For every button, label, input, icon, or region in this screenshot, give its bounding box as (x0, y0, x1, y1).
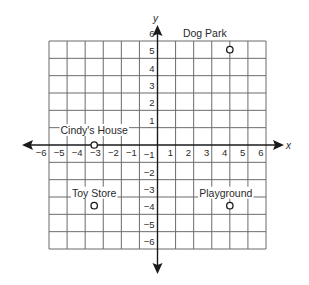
y-tick-label: −3 (144, 184, 155, 195)
x-tick-label: 4 (222, 147, 227, 158)
point-marker-icon (227, 202, 233, 208)
x-tick-label: 6 (258, 147, 263, 158)
x-tick-label: 1 (168, 147, 173, 158)
y-tick-label: 1 (149, 115, 154, 126)
point-label: Playground (199, 187, 252, 199)
x-tick-label: −5 (54, 147, 65, 158)
point-playground: Playground (198, 187, 253, 209)
y-tick-label: 2 (149, 97, 154, 108)
coordinate-plane: −6−5−4−3−2−1123456654321−1−2−3−4−5−6 Dog… (0, 0, 309, 285)
x-tick-label: −6 (36, 147, 47, 158)
y-tick-label: 6 (149, 28, 154, 39)
y-tick-label: −4 (144, 201, 155, 212)
point-label: Dog Park (183, 27, 228, 39)
point-label: Cindy's House (61, 124, 129, 136)
y-tick-label: −2 (144, 167, 155, 178)
point-marker-icon (227, 46, 233, 52)
point-label: Toy Store (72, 187, 117, 199)
points: Dog ParkCindy's HouseToy StorePlayground (60, 27, 254, 209)
y-tick-label: 5 (149, 45, 154, 56)
x-tick-label: −2 (108, 147, 119, 158)
x-tick-label: 3 (204, 147, 209, 158)
y-tick-label: −6 (144, 236, 155, 247)
y-tick-label: 4 (149, 63, 154, 74)
x-tick-label: −4 (72, 147, 83, 158)
point-toy-store: Toy Store (71, 187, 118, 209)
point-dog-park: Dog Park (182, 27, 233, 53)
x-tick-label: 2 (186, 147, 191, 158)
y-axis-title: y (152, 13, 159, 24)
y-tick-label: 3 (149, 80, 154, 91)
y-tick-label: −5 (144, 219, 155, 230)
x-tick-label: 5 (240, 147, 245, 158)
x-tick-label: −1 (126, 147, 137, 158)
point-marker-icon (91, 202, 97, 208)
y-tick-label: −1 (144, 149, 155, 160)
point-marker-icon (91, 142, 97, 148)
x-axis-title: x (285, 140, 292, 151)
